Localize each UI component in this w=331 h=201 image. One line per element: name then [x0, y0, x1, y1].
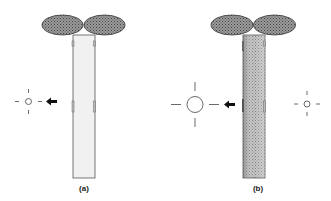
panel-label-a: (a): [79, 184, 89, 193]
panel-label-b: (b): [253, 184, 263, 193]
leaf-b-right: [254, 15, 296, 35]
leaf-a-left: [42, 15, 83, 35]
stem-marker-a-top-right: [94, 41, 96, 46]
leaf-a-right: [84, 15, 125, 35]
stem-marker-a-mid-right: [94, 101, 96, 112]
leaf-b-left: [211, 15, 253, 35]
stem-marker-b-mid-right: [264, 101, 266, 112]
sun-icon: [187, 97, 203, 113]
panel-b: [171, 15, 320, 178]
stem-a: [73, 35, 95, 178]
light-source-b-small: [294, 91, 320, 116]
phototropism-diagram: [0, 0, 331, 201]
sun-icon: [26, 99, 32, 105]
stem-marker-b-top-right: [264, 41, 266, 46]
arrow-left-icon-b: [224, 101, 235, 109]
sun-icon: [304, 101, 310, 107]
panel-a: [15, 15, 125, 178]
stem-marker-a-mid-left: [72, 101, 74, 112]
arrow-left-icon-a: [46, 98, 57, 106]
stem-marker-a-top-left: [72, 41, 74, 46]
light-source-b-large: [171, 82, 219, 127]
light-source-a-small: [15, 89, 42, 114]
stem-marker-b-top-left: [242, 41, 244, 51]
stem-marker-b-mid-left: [242, 99, 244, 112]
